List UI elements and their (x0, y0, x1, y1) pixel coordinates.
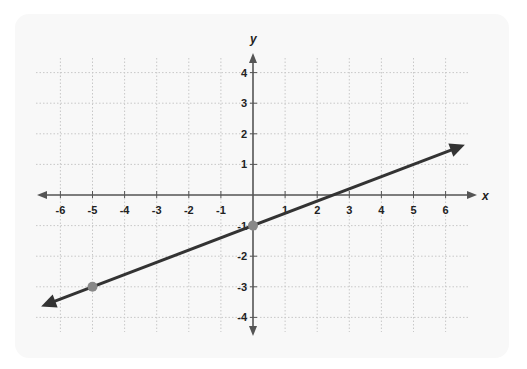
y-tick-label: -3 (237, 281, 247, 293)
x-tick-label: -3 (152, 204, 162, 216)
axes (37, 53, 477, 336)
x-axis-right-arrow-icon (467, 191, 477, 199)
x-tick-label: 2 (314, 204, 320, 216)
data-point (248, 221, 258, 231)
x-tick-label: 5 (410, 204, 416, 216)
y-axis-down-arrow-icon (249, 326, 257, 336)
coordinate-plane: -6-5-4-3-2-11234564321-1-2-3-4 x y (0, 0, 527, 369)
y-tick-label: 2 (241, 128, 247, 140)
data-point (88, 282, 98, 292)
x-tick-label: -5 (88, 204, 98, 216)
x-tick-label: -6 (56, 204, 66, 216)
x-axis-left-arrow-icon (37, 191, 47, 199)
y-axis-up-arrow-icon (249, 53, 257, 63)
x-tick-label: -4 (120, 204, 131, 216)
x-tick-label: -2 (184, 204, 194, 216)
x-axis-label: x (481, 189, 490, 203)
y-tick-label: 4 (241, 67, 248, 79)
y-axis-label: y (249, 32, 258, 46)
x-tick-label: -1 (216, 204, 226, 216)
y-tick-label: -2 (237, 250, 247, 262)
x-tick-label: 3 (346, 204, 352, 216)
y-tick-label: 1 (241, 158, 247, 170)
y-tick-label: -4 (237, 311, 248, 323)
y-tick-label: 3 (241, 97, 247, 109)
x-tick-label: 4 (378, 204, 385, 216)
x-tick-label: 6 (443, 204, 449, 216)
